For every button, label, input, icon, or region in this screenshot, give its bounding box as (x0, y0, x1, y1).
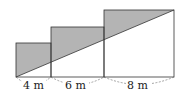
label-4m: 4 m (23, 79, 44, 92)
label-6m: 6 m (65, 79, 86, 92)
label-8m: 8 m (127, 79, 148, 92)
squares-diagram: 4 m 6 m 8 m (0, 0, 187, 103)
